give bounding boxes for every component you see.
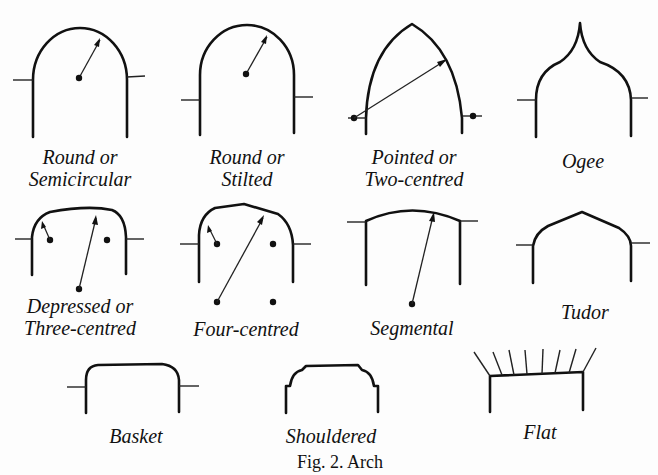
label-line-1: Tudor bbox=[561, 301, 609, 323]
label-line-2: Stilted bbox=[210, 168, 285, 190]
basket-arch-drawing bbox=[67, 364, 199, 413]
label-line-1: Segmental bbox=[370, 317, 453, 339]
label-pointed-two-centred: Pointed or Two-centred bbox=[365, 146, 464, 190]
label-line-1: Four-centred bbox=[193, 318, 299, 340]
label-segmental: Segmental bbox=[370, 317, 453, 339]
label-depressed-three-centred: Depressed or Three-centred bbox=[24, 295, 136, 339]
figure-caption: Fig. 2. Arch bbox=[297, 452, 383, 473]
flat-arch-drawing bbox=[474, 348, 596, 412]
label-line-1: Shouldered bbox=[286, 425, 376, 447]
label-ogee: Ogee bbox=[562, 150, 604, 172]
label-line-2: Semicircular bbox=[29, 168, 132, 190]
label-line-1: Ogee bbox=[562, 150, 604, 172]
arch-figure: Round or Semicircular Round or Stilted P… bbox=[0, 0, 658, 475]
depressed-three-centred-arch-drawing bbox=[15, 208, 144, 292]
pointed-two-centred-arch-drawing bbox=[348, 24, 482, 134]
label-line-1: Round or bbox=[210, 146, 285, 168]
label-four-centred: Four-centred bbox=[193, 318, 299, 340]
shouldered-arch-drawing bbox=[286, 365, 378, 413]
label-round-stilted: Round or Stilted bbox=[210, 146, 285, 190]
four-centred-arch-drawing bbox=[180, 204, 311, 305]
label-round-semicircular: Round or Semicircular bbox=[29, 146, 132, 190]
label-line-1: Flat bbox=[523, 421, 556, 443]
label-flat: Flat bbox=[523, 421, 556, 443]
round-semicircular-arch-drawing bbox=[13, 28, 145, 137]
label-basket: Basket bbox=[109, 425, 162, 447]
ogee-arch-drawing bbox=[517, 23, 648, 137]
label-line-1: Round or bbox=[29, 146, 132, 168]
arch-drawings bbox=[0, 0, 658, 475]
label-tudor: Tudor bbox=[561, 301, 609, 323]
label-line-1: Pointed or bbox=[365, 146, 464, 168]
tudor-arch-drawing bbox=[516, 212, 650, 283]
segmental-arch-drawing bbox=[347, 211, 478, 308]
round-stilted-arch-drawing bbox=[181, 25, 313, 135]
label-shouldered: Shouldered bbox=[286, 425, 376, 447]
label-line-2: Two-centred bbox=[365, 168, 464, 190]
label-line-1: Depressed or bbox=[24, 295, 136, 317]
label-line-2: Three-centred bbox=[24, 317, 136, 339]
label-line-1: Basket bbox=[109, 425, 162, 447]
